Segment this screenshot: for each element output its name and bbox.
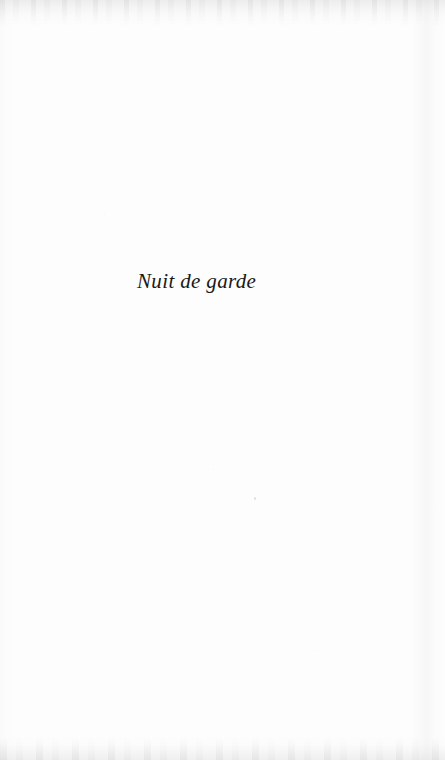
scan-right-edge-streak [411, 0, 445, 760]
scan-bottom-edge-band [0, 736, 445, 760]
page-title: Nuit de garde [137, 268, 256, 294]
scan-speck [318, 650, 319, 651]
book-page: Nuit de garde [0, 0, 445, 760]
scan-left-edge-shade [0, 0, 14, 760]
part-title-block: Nuit de garde [0, 268, 445, 294]
scan-speck [213, 469, 214, 470]
scan-speck [104, 214, 105, 215]
scan-speck [254, 497, 256, 500]
scan-top-edge-band [0, 0, 445, 26]
